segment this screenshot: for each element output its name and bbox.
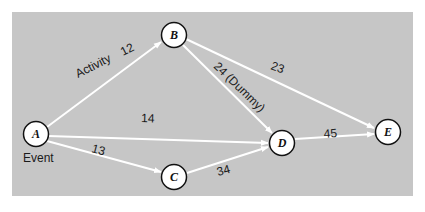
node-label-b: B bbox=[169, 28, 178, 42]
node-c: C bbox=[162, 165, 187, 190]
edge-a-d bbox=[48, 136, 268, 143]
node-b: B bbox=[162, 23, 187, 48]
event-annotation: Event bbox=[23, 151, 54, 165]
node-e: E bbox=[376, 120, 401, 145]
edge-label-b-e: 23 bbox=[269, 59, 287, 77]
edge-label-c-d: 34 bbox=[215, 162, 232, 179]
network-diagram: Activity 12 14 13 23 24 (Dummy) 34 45 Ev… bbox=[0, 0, 425, 212]
edge-label-d-e: 45 bbox=[323, 126, 338, 141]
node-label-c: C bbox=[170, 170, 179, 184]
edge-label-b-d: 24 (Dummy) bbox=[211, 59, 268, 115]
node-d: D bbox=[270, 131, 295, 156]
edge-label-a-d: 14 bbox=[141, 111, 155, 125]
edge-b-e bbox=[186, 39, 374, 128]
node-label-a: A bbox=[31, 127, 40, 141]
edge-label-a-b: 12 bbox=[118, 40, 137, 59]
node-label-e: E bbox=[383, 125, 392, 139]
node-a: A bbox=[24, 122, 49, 147]
node-label-d: D bbox=[277, 136, 287, 150]
activity-annotation: Activity bbox=[73, 51, 113, 81]
